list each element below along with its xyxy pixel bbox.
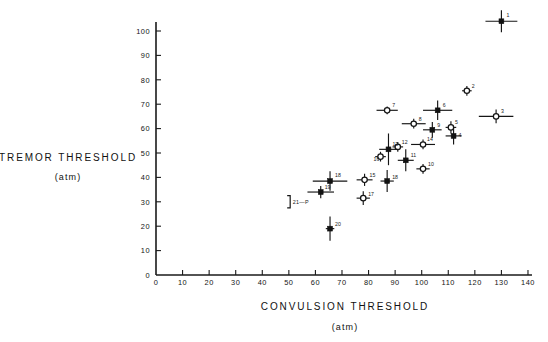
data-point-label: 9 [437, 122, 440, 128]
x-axis-ticks: 0102030405060708090100110120130140 [154, 270, 535, 287]
x-axis-unit: (atm) [332, 322, 359, 332]
marker-open-circle[interactable] [420, 142, 425, 147]
x-tick-label: 50 [284, 278, 293, 287]
x-tick-label: 60 [311, 278, 320, 287]
y-tick-label: 60 [141, 124, 150, 133]
data-point-label: 15 [370, 172, 376, 178]
marker-filled-square[interactable] [328, 226, 333, 231]
data-point[interactable]: 13 [379, 133, 398, 165]
y-tick-label: 10 [141, 246, 150, 255]
data-point-label: 4 [459, 132, 462, 138]
data-point-label: 10 [428, 161, 434, 167]
data-point[interactable]: 1 [485, 10, 517, 32]
data-point-label: 2 [472, 83, 475, 89]
data-point[interactable]: 6 [423, 101, 452, 121]
annotations-layer: 21—P [287, 196, 309, 208]
x-tick-label: 130 [494, 278, 508, 287]
data-point-label: 8 [419, 116, 422, 122]
data-point-label: 7 [392, 102, 395, 108]
y-tick-label: 0 [145, 271, 150, 280]
data-points-layer: 123456789101112131415161718181920 [307, 10, 517, 241]
y-axis-title: TREMOR THRESHOLD [0, 152, 137, 163]
x-tick-label: 100 [415, 278, 429, 287]
marker-open-circle[interactable] [361, 195, 366, 200]
x-tick-label: 40 [258, 278, 267, 287]
data-point[interactable]: 4 [446, 127, 462, 144]
marker-filled-square[interactable] [328, 179, 333, 184]
data-point-label: 14 [427, 136, 433, 142]
data-point[interactable]: 3 [479, 108, 514, 123]
data-point-label: 11 [411, 152, 416, 158]
y-axis-unit: (atm) [55, 172, 82, 182]
marker-open-circle[interactable] [420, 166, 425, 171]
y-tick-label: 20 [141, 222, 150, 231]
data-point-label: 18 [335, 172, 341, 178]
bracket-21-p: 21—P [287, 196, 309, 208]
data-point-label: 12 [402, 139, 408, 145]
marker-filled-square[interactable] [318, 190, 323, 195]
x-axis-title: CONVULSION THRESHOLD [261, 301, 429, 312]
data-point[interactable]: 20 [326, 216, 341, 240]
y-tick-label: 70 [141, 100, 150, 109]
marker-open-circle[interactable] [362, 177, 367, 182]
x-tick-label: 0 [154, 278, 159, 287]
data-point-label: 5 [455, 119, 458, 125]
data-point[interactable]: 19 [307, 184, 334, 198]
y-tick-label: 50 [141, 149, 150, 158]
y-tick-label: 100 [136, 27, 150, 36]
x-tick-label: 90 [391, 278, 400, 287]
marker-filled-square[interactable] [451, 134, 456, 139]
data-point[interactable]: 2 [462, 83, 475, 96]
y-tick-label: 90 [141, 51, 150, 60]
y-axis-ticks: 0102030405060708090100 [136, 27, 161, 280]
data-point-label: 6 [443, 102, 446, 108]
data-point[interactable]: 9 [423, 122, 442, 138]
data-point-label: 1 [506, 12, 509, 18]
data-point-label: 18 [392, 174, 398, 180]
marker-filled-square[interactable] [386, 147, 391, 152]
marker-filled-square[interactable] [430, 127, 435, 132]
bracket-shape [287, 196, 290, 208]
y-tick-label: 80 [141, 76, 150, 85]
data-point-label: 13 [392, 141, 398, 147]
data-point[interactable]: 8 [402, 116, 426, 129]
x-tick-label: 140 [521, 278, 535, 287]
data-point[interactable]: 10 [416, 161, 434, 174]
marker-open-circle[interactable] [464, 88, 469, 93]
data-point-label: 17 [368, 191, 374, 197]
scatter-plot-figure: 0102030405060708090100110120130140 01020… [0, 0, 548, 342]
data-point[interactable]: 18 [381, 170, 399, 192]
marker-open-circle[interactable] [448, 125, 453, 130]
data-point-label: 16 [374, 156, 380, 162]
x-tick-label: 20 [205, 278, 214, 287]
x-tick-label: 110 [442, 278, 455, 287]
marker-filled-square[interactable] [499, 19, 504, 24]
x-tick-label: 80 [364, 278, 373, 287]
x-tick-label: 70 [337, 278, 346, 287]
y-tick-label: 40 [141, 173, 150, 182]
data-point-label: 3 [501, 108, 504, 114]
data-point[interactable]: 7 [377, 102, 398, 114]
x-tick-label: 30 [231, 278, 240, 287]
bracket-label: 21—P [293, 199, 309, 205]
plot-canvas: 0102030405060708090100110120130140 01020… [0, 0, 548, 342]
data-point-label: 19 [325, 184, 331, 190]
data-point[interactable]: 14 [411, 136, 435, 149]
data-point[interactable]: 5 [446, 119, 458, 133]
data-point[interactable]: 15 [357, 172, 376, 186]
x-tick-label: 10 [178, 278, 187, 287]
marker-open-circle[interactable] [411, 121, 416, 126]
marker-open-circle[interactable] [384, 108, 389, 113]
data-point-label: 20 [335, 221, 341, 227]
y-tick-label: 30 [141, 198, 150, 207]
marker-open-circle[interactable] [493, 114, 498, 119]
axes [156, 22, 532, 275]
marker-filled-square[interactable] [435, 108, 440, 113]
data-point[interactable]: 16 [374, 152, 386, 162]
marker-filled-square[interactable] [403, 158, 408, 163]
data-point[interactable]: 17 [357, 191, 375, 205]
data-point[interactable]: 11 [398, 149, 416, 171]
marker-filled-square[interactable] [385, 179, 390, 184]
x-tick-label: 120 [468, 278, 482, 287]
